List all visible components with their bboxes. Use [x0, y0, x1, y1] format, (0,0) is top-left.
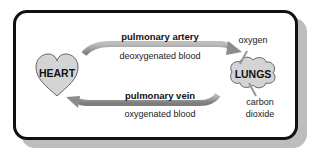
carbon-label: carbon [246, 97, 274, 107]
deoxygenated-blood-label: deoxygenated blood [119, 51, 200, 61]
heart-label: HEART [39, 67, 75, 79]
pulmonary-artery-label: pulmonary artery [121, 31, 199, 42]
oxygen-label: oxygen [238, 35, 267, 45]
pulmonary-vein-label: pulmonary vein [125, 90, 195, 101]
lungs-label: LUNGS [235, 68, 272, 80]
oxygenated-blood-label: oxygenated blood [124, 109, 195, 119]
dioxide-label: dioxide [246, 109, 275, 119]
